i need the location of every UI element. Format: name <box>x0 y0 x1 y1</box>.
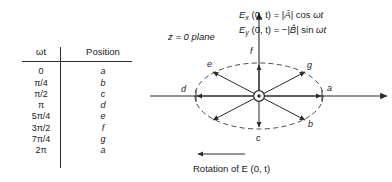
eq2-tail: | sin <box>296 24 316 35</box>
rotation-caption: Rotation of E (0, t) <box>193 163 270 174</box>
eq2-omega-t: ωt <box>316 24 326 35</box>
cell-omega-t: π/4 <box>22 78 60 89</box>
plane-label: z = 0 plane <box>168 31 215 42</box>
cell-position: g <box>60 134 132 145</box>
table-row: π/2 c <box>22 89 132 100</box>
cell-omega-t: π <box>22 100 60 111</box>
column-header-omega-t: ωt <box>22 46 60 62</box>
table-row: π/4 b <box>22 78 132 89</box>
out-of-page-dot-icon <box>257 94 260 97</box>
vector-label-a: a <box>327 84 332 93</box>
eq1-tail: | cos <box>291 9 314 20</box>
equation-ex: Ex (0, t) = |Â| cos ωt <box>239 10 323 21</box>
cell-position: f <box>60 123 132 134</box>
table-row: 0 a <box>22 62 132 78</box>
physics-figure: ωt Position 0 a π/4 b π/2 c π <box>0 0 392 182</box>
vector-g <box>259 72 305 96</box>
vector-b <box>259 96 305 120</box>
table-body: 0 a π/4 b π/2 c π d 5π/4 e <box>22 62 132 157</box>
cell-omega-t: 5π/4 <box>22 111 60 122</box>
table-row: 2π a <box>22 145 132 156</box>
cell-omega-t: π/2 <box>22 89 60 100</box>
table: ωt Position 0 a π/4 b π/2 c π <box>22 46 132 157</box>
eq1-omega-t: ωt <box>313 9 323 20</box>
table-header-row: ωt Position <box>22 46 132 62</box>
plane-label-text: z = 0 plane <box>168 31 215 42</box>
table-row: 3π/2 f <box>22 123 132 134</box>
vector-e <box>213 72 259 96</box>
cell-position: a <box>60 145 132 156</box>
table-row: 7π/4 g <box>22 134 132 145</box>
cell-position: e <box>60 111 132 122</box>
table-vertical-divider <box>60 47 61 168</box>
cell-omega-t: 2π <box>22 145 60 156</box>
phase-position-table: ωt Position 0 a π/4 b π/2 c π <box>22 46 138 157</box>
vector-lower-left <box>213 96 259 120</box>
vector-label-b: b <box>308 120 313 129</box>
table-row: π d <box>22 100 132 111</box>
cell-omega-t: 0 <box>22 62 60 78</box>
equation-ey: Ey (0, t) = −|B̂| sin ωt <box>239 25 326 36</box>
table-head: ωt Position <box>22 46 132 62</box>
cell-position: a <box>60 62 132 78</box>
eq2-args: (0, t) = −| <box>249 24 290 35</box>
cell-position: d <box>60 100 132 111</box>
vector-label-f: f <box>250 47 253 56</box>
vector-label-g: g <box>307 61 312 70</box>
vector-label-d: d <box>181 85 186 94</box>
vector-label-c: c <box>256 134 261 143</box>
cell-omega-t: 3π/2 <box>22 123 60 134</box>
vector-rotation-diagram: a b c d e f g z = 0 plane Ex (0, t) = |Â… <box>150 0 392 182</box>
vector-label-e: e <box>207 60 212 69</box>
cell-position: c <box>60 89 132 100</box>
column-header-position: Position <box>60 46 132 62</box>
cell-omega-t: 7π/4 <box>22 134 60 145</box>
table-row: 5π/4 e <box>22 111 132 122</box>
cell-position: b <box>60 78 132 89</box>
eq1-args: (0, t) = | <box>249 9 284 20</box>
